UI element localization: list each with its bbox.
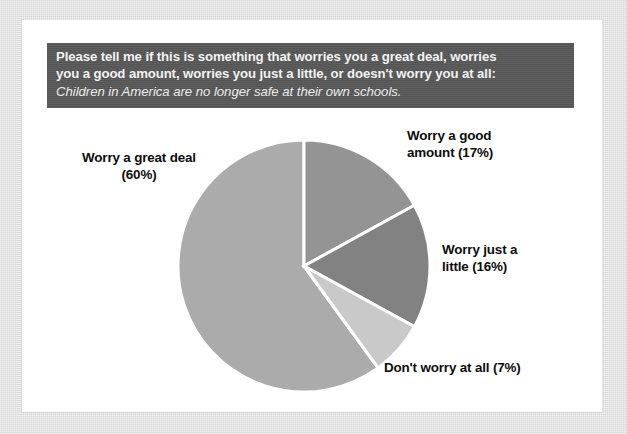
pie-label-worry-good-amount: Worry a good amount (17%)	[407, 128, 567, 161]
pie-label-worry-just-little: Worry just a little (16%)	[442, 242, 592, 275]
pie-chart-svg	[22, 20, 602, 412]
screenshot-page: Please tell me if this is something that…	[0, 0, 627, 434]
pie-label-worry-great-deal: Worry a great deal (60%)	[50, 150, 228, 183]
pie-label-dont-worry-at-all: Don't worry at all (7%)	[384, 360, 589, 377]
chart-card: Please tell me if this is something that…	[22, 20, 602, 412]
pie-chart: Worry a great deal (60%) Worry a good am…	[22, 20, 602, 412]
